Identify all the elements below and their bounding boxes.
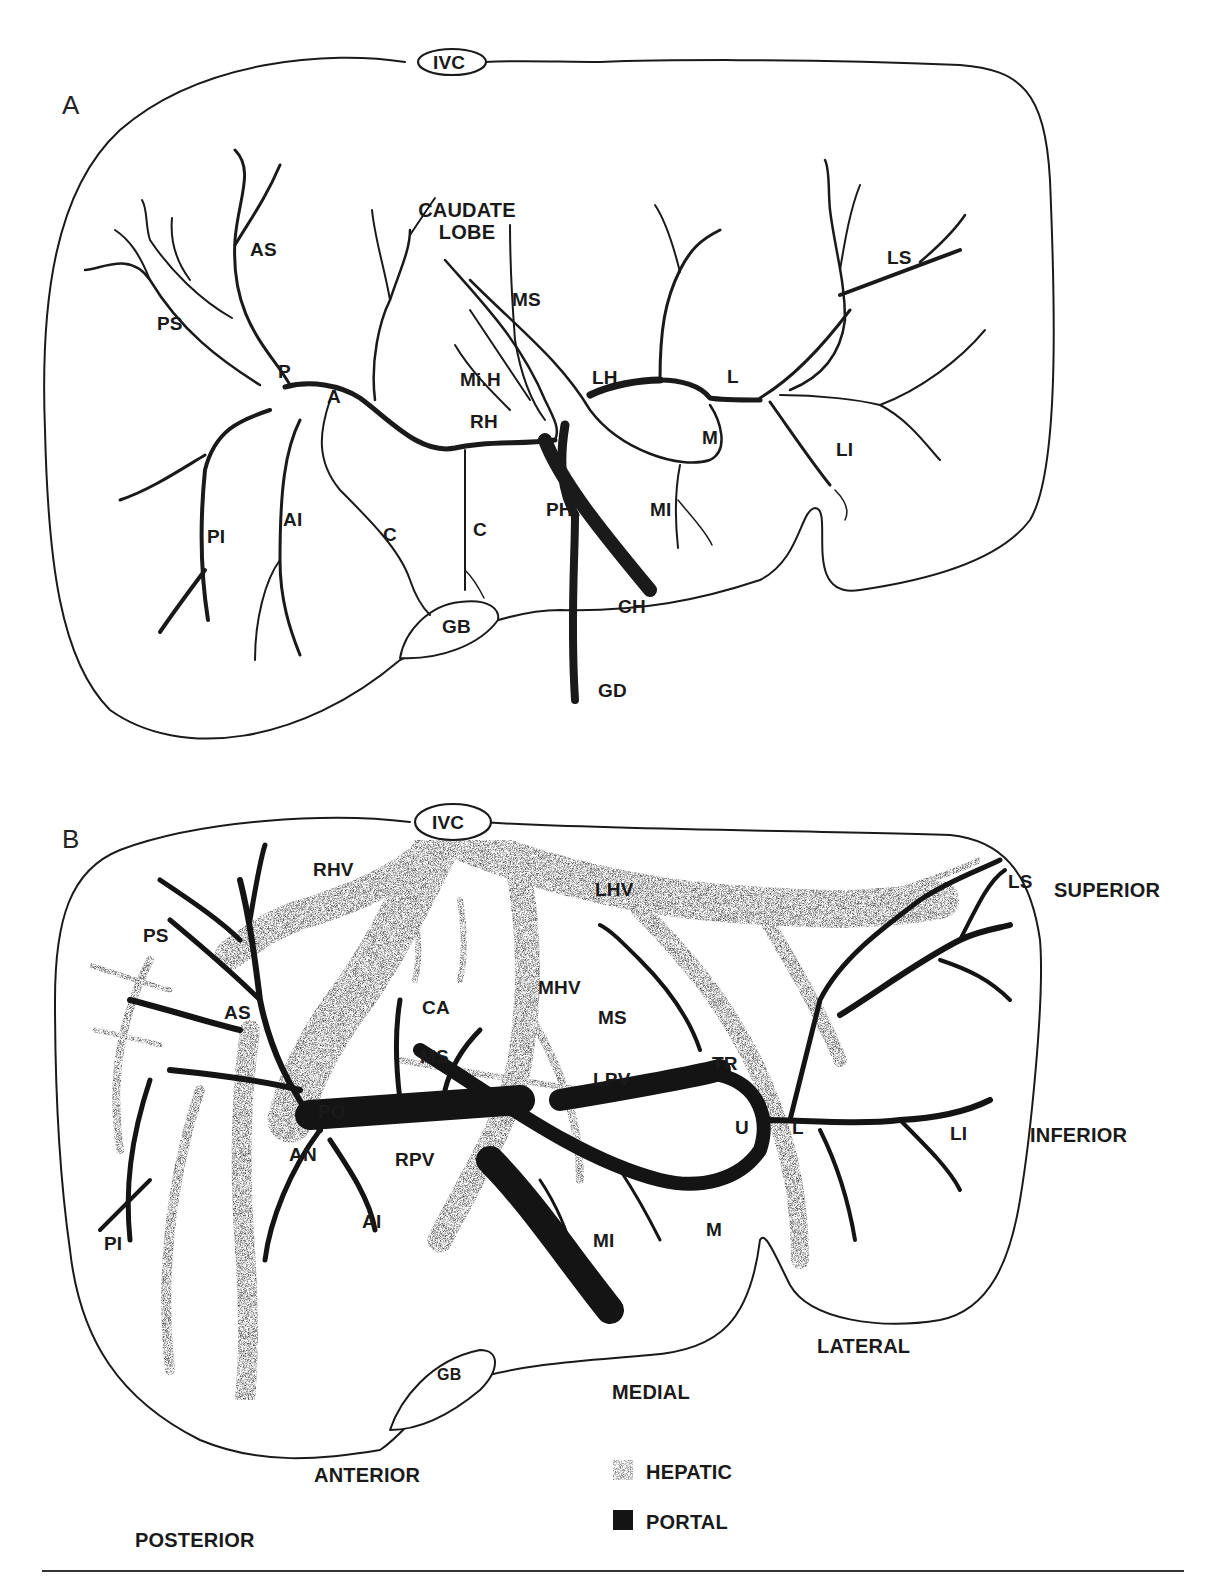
label-ai-b: AI <box>362 1212 381 1231</box>
label-ai-a: AI <box>283 510 302 529</box>
label-c1-a: C <box>383 525 397 544</box>
label-pi-a: PI <box>207 527 225 546</box>
liver-diagrams <box>0 0 1231 1595</box>
label-li-b: LI <box>950 1124 967 1143</box>
label-an-b: AN <box>289 1145 317 1164</box>
label-tr-b: TR <box>712 1054 738 1073</box>
label-mih-a: Mi.H <box>460 370 501 389</box>
label-as-b: AS <box>224 1003 251 1022</box>
caudate-lobe-label-line2: LOBE <box>412 222 522 242</box>
label-gb-b: GB <box>437 1367 461 1383</box>
caption-divider <box>42 1570 1184 1572</box>
liver-outline-a <box>44 58 1054 739</box>
label-l-a: L <box>727 367 739 386</box>
legend-portal-label: PORTAL <box>646 1512 728 1532</box>
label-m-a: M <box>702 428 718 447</box>
label-mhv-b: MHV <box>538 978 581 997</box>
ivc-label-a: IVC <box>433 53 465 72</box>
label-as-a: AS <box>250 240 277 259</box>
orientation-medial: MEDIAL <box>612 1382 690 1402</box>
label-ca-b: CA <box>422 998 450 1017</box>
label-m-b: M <box>706 1220 722 1239</box>
label-ls-b: LS <box>1008 872 1033 891</box>
orientation-superior: SUPERIOR <box>1054 880 1160 900</box>
label-c2-a: C <box>473 520 487 539</box>
label-rpv-b: RPV <box>395 1150 435 1169</box>
legend-swatches <box>613 1460 633 1530</box>
label-ps-a: PS <box>157 314 183 333</box>
label-lh-a: LH <box>592 368 618 387</box>
label-mi-a: MI <box>650 500 672 519</box>
label-gd-a: GD <box>598 681 627 700</box>
label-u-b: U <box>735 1118 749 1137</box>
label-a-a: A <box>327 387 341 406</box>
label-rhv-b: RHV <box>313 860 354 879</box>
orientation-inferior: INFERIOR <box>1030 1125 1127 1145</box>
portal-swatch-icon <box>613 1510 633 1530</box>
label-lpv-b: LPV <box>593 1070 631 1089</box>
label-ch-a: CH <box>618 597 646 616</box>
panel-b-label: B <box>62 826 80 852</box>
label-ls-a: LS <box>887 248 912 267</box>
label-l-b: L <box>792 1118 804 1137</box>
label-gb-a: GB <box>442 617 471 636</box>
caudate-lobe-label-line1: CAUDATE <box>412 200 522 220</box>
panel-b-drawing <box>55 804 1041 1458</box>
panel-a-drawing <box>44 49 1054 739</box>
label-mi-b: MI <box>593 1231 615 1250</box>
orientation-lateral: LATERAL <box>817 1336 910 1356</box>
label-po-b: PO <box>318 1102 346 1121</box>
ivc-label-b: IVC <box>432 813 464 832</box>
legend-hepatic-label: HEPATIC <box>646 1462 732 1482</box>
label-pi-b: PI <box>104 1234 122 1253</box>
label-rh-a: RH <box>470 412 498 431</box>
label-ms1-b: MS <box>598 1008 627 1027</box>
label-ms-a: MS <box>512 290 541 309</box>
hepatic-swatch-icon <box>613 1460 633 1480</box>
label-ph-a: PH <box>546 500 573 519</box>
label-p-a: P <box>278 362 291 381</box>
panel-a-label: A <box>62 92 80 118</box>
label-lhv-b: LHV <box>595 880 634 899</box>
orientation-posterior: POSTERIOR <box>135 1530 255 1550</box>
label-ps-b: PS <box>143 926 169 945</box>
orientation-anterior: ANTERIOR <box>314 1465 420 1485</box>
label-ms2-b: MS <box>420 1047 449 1066</box>
gallbladder-b <box>390 1350 495 1430</box>
label-li-a: LI <box>836 440 853 459</box>
